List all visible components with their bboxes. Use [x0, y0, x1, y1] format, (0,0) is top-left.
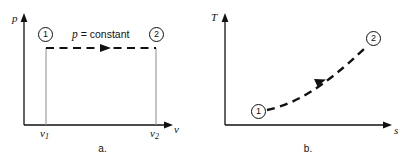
axis-label-s: s [394, 125, 398, 136]
panel-b-canvas [205, 0, 411, 162]
panel-a-pv-diagram: p v v1 v2 p = constant 1 2 a. [0, 0, 205, 162]
axis-label-T: T [211, 12, 217, 23]
process-direction-arrow [100, 44, 111, 52]
annotation-p-constant: p = constant [72, 29, 129, 41]
y-axis-p [21, 13, 28, 125]
tick-label-v1-sub: 1 [45, 132, 49, 141]
state-point-1: 1 [251, 104, 266, 119]
state-point-2: 2 [366, 31, 381, 46]
tick-label-v2-sub: 2 [155, 132, 159, 141]
axis-label-p: p [12, 13, 18, 24]
panel-b-ts-diagram: T s 1 2 b. [205, 0, 411, 162]
y-axis-T [222, 13, 229, 125]
tick-label-v1: v1 [40, 128, 49, 141]
annotation-equals-constant: = constant [78, 28, 130, 40]
panel-a-canvas [0, 0, 205, 162]
tick-label-v2: v2 [150, 128, 159, 141]
axis-label-v: v [174, 124, 179, 135]
panel-b-caption: b. [205, 144, 411, 154]
process-path-curve [267, 48, 365, 110]
panel-a-caption: a. [0, 144, 205, 154]
state-point-2: 2 [149, 27, 164, 42]
figure-root: p v v1 v2 p = constant 1 2 a. [0, 0, 411, 162]
state-point-1: 1 [38, 27, 53, 42]
x-axis-s [225, 122, 392, 129]
